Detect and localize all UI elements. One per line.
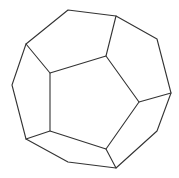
front-pentagon-face [50,56,139,149]
connecting-edge [106,149,116,168]
connecting-edge [26,131,50,139]
connecting-edge [139,93,171,102]
connecting-edge [26,44,50,73]
connecting-edge [106,16,116,56]
dodecahedron-diagram [0,0,179,178]
dodecahedron-drawing [0,0,179,178]
connecting-edges [26,16,171,168]
